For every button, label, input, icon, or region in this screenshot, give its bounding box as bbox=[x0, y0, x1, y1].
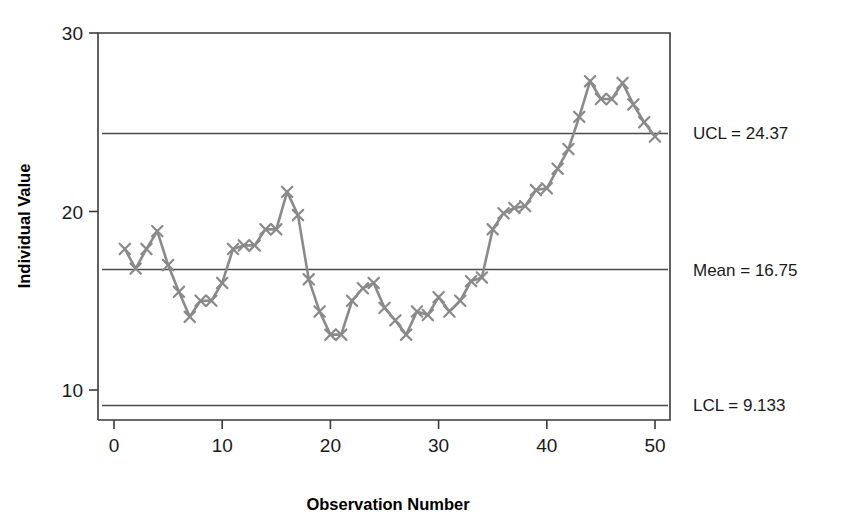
limit-label-mean: Mean = 16.75 bbox=[693, 261, 797, 280]
control-chart: 01020304050 102030 UCL = 24.37Mean = 16.… bbox=[0, 0, 841, 529]
x-tick-label: 30 bbox=[428, 435, 449, 456]
x-tick-label: 20 bbox=[320, 435, 341, 456]
limit-label-lcl: LCL = 9.133 bbox=[693, 396, 785, 415]
y-tick-label: 30 bbox=[62, 23, 83, 44]
x-tick-label: 50 bbox=[644, 435, 665, 456]
chart-canvas: 01020304050 102030 UCL = 24.37Mean = 16.… bbox=[0, 0, 841, 529]
limit-label-ucl: UCL = 24.37 bbox=[693, 124, 788, 143]
x-tick-label: 0 bbox=[109, 435, 120, 456]
x-tick-label: 10 bbox=[212, 435, 233, 456]
x-axis-title: Observation Number bbox=[306, 495, 470, 513]
y-tick-label: 20 bbox=[62, 202, 83, 223]
x-tick-label: 40 bbox=[536, 435, 557, 456]
y-tick-label: 10 bbox=[62, 380, 83, 401]
y-axis-title: Individual Value bbox=[15, 164, 33, 289]
